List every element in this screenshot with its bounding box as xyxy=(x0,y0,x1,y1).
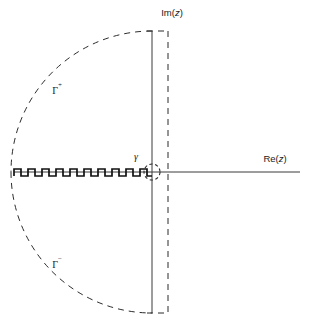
imaginary-axis-label-suffix: ) xyxy=(180,7,183,18)
real-axis-label-prefix: Re( xyxy=(263,153,279,164)
contour-plot-canvas: Im(z) Re(z) Γ+ Γ− γ xyxy=(0,0,310,327)
imaginary-axis-label-prefix: Im( xyxy=(161,7,176,18)
outer-arc-lower-path xyxy=(11,172,152,313)
gamma-plus-label: Γ+ xyxy=(52,81,62,96)
real-axis-label-suffix: ) xyxy=(283,153,286,164)
gamma-plus-superscript: + xyxy=(58,81,62,89)
imaginary-axis-label: Im(z) xyxy=(161,7,183,18)
real-axis-label: Re(z) xyxy=(263,153,286,164)
contour-diagram-figure: Im(z) Re(z) Γ+ Γ− γ xyxy=(0,0,310,327)
gamma-minus-superscript: − xyxy=(58,255,62,263)
outer-arc-upper-path xyxy=(11,31,152,172)
gamma-minus-label: Γ− xyxy=(52,255,62,270)
small-gamma-label: γ xyxy=(134,151,139,162)
